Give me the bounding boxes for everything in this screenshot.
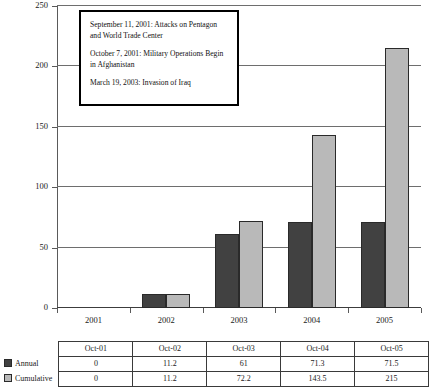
table-cell-annual-Oct-03: 61 [207,357,281,372]
table-cell-cumulative-Oct-02: 11.2 [133,372,207,387]
x-tick-1 [130,308,131,313]
table-column-header-Oct-02: Oct-02 [133,342,207,357]
x-axis-label-2004: 2004 [282,315,342,325]
annotation-event-1: October 7, 2001: Military Operations Beg… [90,49,229,70]
y-axis-label-0: 0 [8,303,48,312]
bar-cumulative-2004 [312,135,336,308]
legend-swatch-icon [4,359,12,367]
x-tick-0 [57,308,58,313]
table-cell-annual-Oct-01: 0 [59,357,133,372]
table-cell-cumulative-Oct-04: 143.5 [281,372,355,387]
annotation-event-2: March 19, 2003: Invasion of Iraq [90,78,229,89]
bar-annual-2005 [361,222,385,308]
bar-annual-2003 [215,234,239,308]
bar-cumulative-2005 [385,48,409,308]
legend-item-cumulative: Cumulative [2,372,59,387]
x-tick-3 [275,308,276,313]
table-cell-cumulative-Oct-05: 215 [355,372,429,387]
table-cell-annual-Oct-04: 71.3 [281,357,355,372]
annotation-event-2-line-1: March 19, 2003: Invasion of Iraq [90,78,229,89]
table-cell-cumulative-Oct-01: 0 [59,372,133,387]
table-cell-annual-Oct-05: 71.5 [355,357,429,372]
x-axis-label-2001: 2001 [63,315,123,325]
chart-page: 050100150200250 20012002200320042005 Sep… [0,0,431,392]
table-column-header-Oct-05: Oct-05 [355,342,429,357]
annotation-event-1-line-2: in Afghanistan [90,60,229,71]
annotation-event-1-line-1: October 7, 2001: Military Operations Beg… [90,49,229,60]
x-tick-4 [348,308,349,313]
x-tick-5 [421,308,422,313]
data-table: Oct-01Oct-02Oct-03Oct-04Oct-05Annual011.… [2,341,429,387]
table-cell-cumulative-Oct-03: 72.2 [207,372,281,387]
legend-swatch-icon [4,374,12,382]
table-row: Cumulative011.272.2143.5215 [2,372,429,387]
table-column-header-Oct-03: Oct-03 [207,342,281,357]
annotation-event-0-line-1: September 11, 2001: Attacks on Pentagon [90,20,229,31]
table-column-header-Oct-04: Oct-04 [281,342,355,357]
table-body: Oct-01Oct-02Oct-03Oct-04Oct-05Annual011.… [2,342,429,387]
table-cell-annual-Oct-02: 11.2 [133,357,207,372]
table-corner-cell [2,342,59,357]
table-column-header-Oct-01: Oct-01 [59,342,133,357]
bar-chart: 050100150200250 20012002200320042005 Sep… [0,0,431,336]
y-axis-label-50: 50 [8,243,48,252]
annotation-textbox: September 11, 2001: Attacks on Pentagon … [79,10,239,106]
y-axis-label-250: 250 [8,1,48,10]
table-row: Annual011.26171.371.5 [2,357,429,372]
x-axis-label-2003: 2003 [209,315,269,325]
annotation-event-0: September 11, 2001: Attacks on Pentagon … [90,20,229,41]
x-axis-label-2002: 2002 [136,315,196,325]
bar-annual-2002 [142,294,166,308]
legend-label: Cumulative [15,374,52,383]
x-tick-2 [203,308,204,313]
y-axis-label-100: 100 [8,182,48,191]
legend-item-annual: Annual [2,357,59,372]
bar-cumulative-2002 [166,294,190,308]
y-axis-label-150: 150 [8,122,48,131]
x-axis-label-2005: 2005 [355,315,415,325]
table-header-row: Oct-01Oct-02Oct-03Oct-04Oct-05 [2,342,429,357]
annotation-event-0-line-2: and World Trade Center [90,31,229,42]
y-axis-label-200: 200 [8,61,48,70]
bar-annual-2004 [288,222,312,308]
bar-cumulative-2003 [239,221,263,308]
legend-label: Annual [15,359,39,368]
